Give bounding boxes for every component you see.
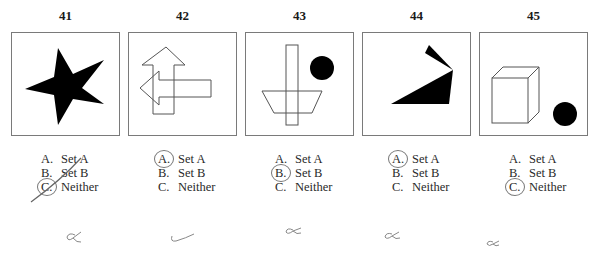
alpha-mark-icon [479,234,588,254]
option-c[interactable]: C.Neither [158,180,215,194]
answer-options: A.Set A B.Set B C.Neither [41,152,98,194]
cube-circle-figure-icon [480,33,587,135]
rectangle-trapezoid-circle-figure-icon [246,33,353,135]
option-a[interactable]: A.Set A [41,152,98,166]
star-figure-icon [12,33,119,135]
question-number: 42 [128,8,237,24]
option-c[interactable]: C.Neither [41,180,98,194]
answer-options: A.Set A B.Set B C.Neither [158,152,215,194]
circled-answer [505,178,525,196]
option-c[interactable]: C.Neither [275,180,332,194]
question-45: 45 A.Set A B.Set B C.Neither [479,0,588,259]
answer-options: A.Set A B.Set B C.Neither [392,152,449,194]
option-b[interactable]: B.Set B [275,166,332,180]
handwritten-mark [128,228,237,248]
alpha-mark-icon [362,228,471,248]
option-c[interactable]: C.Neither [509,180,566,194]
figure-box [479,32,588,136]
question-number: 41 [11,8,120,24]
option-b[interactable]: B.Set B [158,166,215,180]
figure-box [245,32,354,136]
option-a[interactable]: A.Set A [392,152,449,166]
handwritten-mark [11,228,120,248]
question-42: 42 A.Set A B.Set B C.Neither [128,0,237,259]
option-a[interactable]: A.Set A [158,152,215,166]
option-a[interactable]: A.Set A [509,152,566,166]
option-b[interactable]: B.Set B [392,166,449,180]
triangles-figure-icon [363,33,470,135]
answer-options: A.Set A B.Set B C.Neither [275,152,332,194]
figure-box [362,32,471,136]
handwritten-mark [479,234,588,254]
arrows-figure-icon [129,33,236,135]
handwritten-mark [362,228,471,248]
answer-options: A.Set A B.Set B C.Neither [509,152,566,194]
alpha-mark-icon [11,228,120,248]
option-c[interactable]: C.Neither [392,180,449,194]
handwritten-mark [245,222,354,242]
checkmark-icon [128,228,237,248]
figure-box [11,32,120,136]
question-43: 43 A.Set A B.Set B C.Neither [245,0,354,259]
alpha-mark-icon [245,222,354,242]
figure-box [128,32,237,136]
question-number: 45 [479,8,588,24]
question-44: 44 A.Set A B.Set B C.Neither [362,0,471,259]
question-41: 41 A.Set A B.Set B C.Neither [11,0,120,259]
circled-answer [37,178,57,196]
question-number: 43 [245,8,354,24]
question-number: 44 [362,8,471,24]
